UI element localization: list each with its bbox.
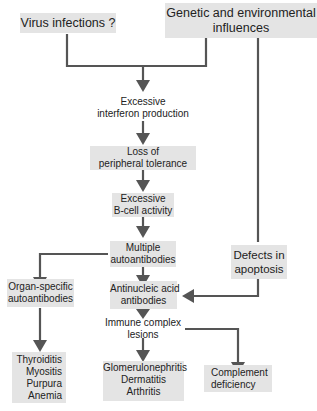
node-virus-infections: Virus infections ? (20, 13, 116, 33)
node-label: deficiency (211, 379, 272, 391)
node-label: Complement (211, 367, 272, 379)
node-label: Genetic and environmental (165, 6, 317, 21)
node-label: interferon production (93, 108, 193, 120)
node-label: Glomerulonephritis (103, 362, 184, 374)
node-label: Multiple (110, 242, 176, 254)
node-organ-specific-autoantibodies: Organ-specific autoantibodies (7, 279, 74, 307)
node-label: Arthritis (103, 386, 184, 398)
node-label: Virus infections ? (20, 16, 116, 31)
node-label: Myositis (12, 366, 62, 378)
node-label: antibodies (110, 295, 177, 307)
node-label: lesions (104, 329, 182, 341)
node-organ-diseases: Thyroiditis Myositis Purpura Anemia (12, 352, 66, 403)
node-complement-deficiency: Complement deficiency (204, 365, 272, 392)
node-label: Excessive (112, 193, 174, 205)
node-label: Immune complex (104, 317, 182, 329)
node-label: Excessive (93, 96, 193, 108)
node-label: Defects in (231, 248, 287, 262)
node-defects-apoptosis: Defects in apoptosis (231, 245, 287, 279)
node-label: apoptosis (231, 262, 287, 276)
node-antinucleic-acid-antibodies: Antinucleic acid antibodies (110, 281, 177, 309)
node-excessive-interferon: Excessive interferon production (93, 95, 193, 121)
node-excessive-bcell: Excessive B-cell activity (112, 193, 174, 217)
node-label: influences (165, 21, 317, 36)
node-label: Anemia (12, 390, 62, 402)
node-label: autoantibodies (7, 293, 74, 305)
node-label: B-cell activity (112, 205, 174, 217)
node-loss-peripheral-tolerance: Loss of peripheral tolerance (90, 146, 196, 170)
node-lesion-diseases: Glomerulonephritis Dermatitis Arthritis (103, 361, 184, 401)
node-label: Organ-specific (7, 281, 74, 293)
node-label: autoantibodies (110, 254, 176, 266)
node-label: peripheral tolerance (90, 158, 196, 170)
node-label: Purpura (12, 378, 62, 390)
node-multiple-autoantibodies: Multiple autoantibodies (110, 241, 176, 267)
node-label: Loss of (90, 146, 196, 158)
node-label: Thyroiditis (12, 354, 62, 366)
node-label: Antinucleic acid (110, 283, 177, 295)
node-immune-complex-lesions: Immune complex lesions (104, 317, 182, 341)
node-label: Dermatitis (103, 374, 184, 386)
node-genetic-environmental: Genetic and environmental influences (165, 3, 317, 38)
